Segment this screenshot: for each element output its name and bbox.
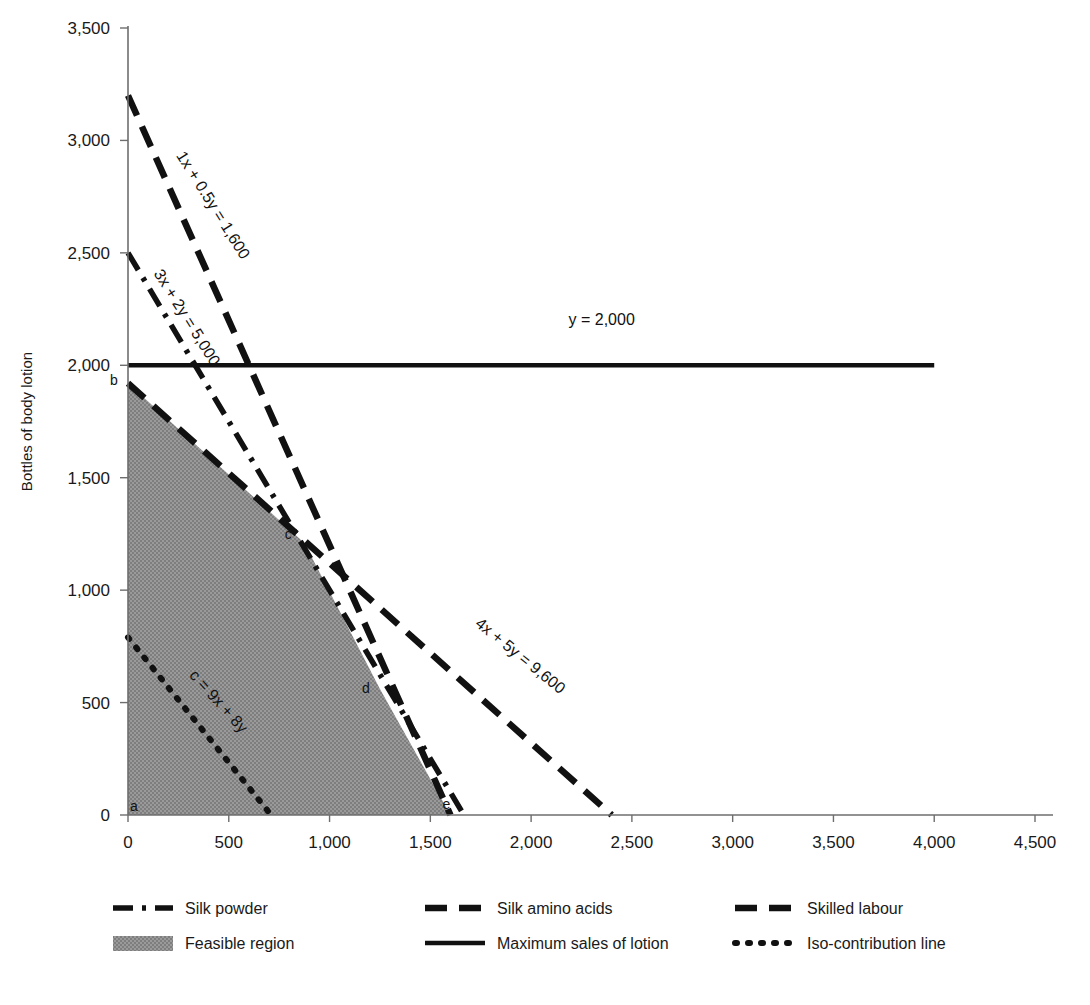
x-tick-label: 3,000 <box>711 833 754 852</box>
annotation-label: 4x + 5y = 9,600 <box>472 614 569 697</box>
vertex-label-a: a <box>130 798 138 814</box>
x-tick-label: 4,500 <box>1014 833 1057 852</box>
chart-canvas: 05001,0001,5002,0002,5003,0003,5004,0004… <box>0 0 1090 1005</box>
y-tick-label: 0 <box>101 806 110 825</box>
y-axis-title: Bottles of body lotion <box>18 352 35 491</box>
x-axis-tick-labels: 05001,0001,5002,0002,5003,0003,5004,0004… <box>123 833 1056 852</box>
x-tick-label: 4,000 <box>913 833 956 852</box>
legend-label: Maximum sales of lotion <box>497 935 669 952</box>
x-tick-label: 2,500 <box>611 833 654 852</box>
y-tick-label: 1,500 <box>67 469 110 488</box>
x-tick-label: 1,000 <box>308 833 351 852</box>
legend-item-iso-contribution-line[interactable]: Iso-contribution line <box>735 935 946 952</box>
y-tick-label: 1,000 <box>67 581 110 600</box>
legend-item-feasible-region[interactable]: Feasible region <box>113 935 294 952</box>
vertex-label-c: c <box>285 526 292 542</box>
legend-item-maximum-sales-of-lotion[interactable]: Maximum sales of lotion <box>425 935 669 952</box>
legend-label: Silk powder <box>185 900 268 917</box>
legend-label: Iso-contribution line <box>807 935 946 952</box>
vertex-label-e: e <box>443 796 451 812</box>
legend-swatch <box>113 936 173 951</box>
y-tick-label: 3,500 <box>67 19 110 38</box>
y-tick-label: 2,500 <box>67 244 110 263</box>
x-tick-label: 0 <box>123 833 132 852</box>
legend-item-skilled-labour[interactable]: Skilled labour <box>735 900 904 917</box>
legend-item-silk-amino-acids[interactable]: Silk amino acids <box>425 900 613 917</box>
y-tick-label: 3,000 <box>67 131 110 150</box>
y-tick-label: 2,000 <box>67 356 110 375</box>
vertex-label-b: b <box>110 372 118 388</box>
legend-item-silk-powder[interactable]: Silk powder <box>113 900 268 917</box>
linear-programming-chart: 05001,0001,5002,0002,5003,0003,5004,0004… <box>0 0 1090 1005</box>
x-tick-label: 1,500 <box>409 833 452 852</box>
annotation-label: y = 2,000 <box>569 311 635 328</box>
x-axis-ticks <box>128 815 1035 822</box>
legend-label: Feasible region <box>185 935 294 952</box>
legend-label: Silk amino acids <box>497 900 613 917</box>
legend-label: Skilled labour <box>807 900 904 917</box>
x-tick-label: 500 <box>215 833 243 852</box>
y-axis-ticks <box>120 28 128 815</box>
y-tick-label: 500 <box>82 694 110 713</box>
vertex-label-d: d <box>362 680 370 696</box>
annotation-label: 1x + 0.5y = 1,600 <box>173 148 253 262</box>
y-axis-tick-labels: 05001,0001,5002,0002,5003,0003,500 <box>67 19 110 825</box>
chart-legend: Silk powderFeasible regionSilk amino aci… <box>113 900 946 952</box>
x-tick-label: 2,000 <box>510 833 553 852</box>
x-tick-label: 3,500 <box>812 833 855 852</box>
